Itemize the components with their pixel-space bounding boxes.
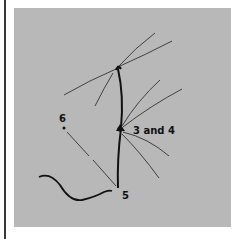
node-3-and-4-dot — [117, 126, 122, 131]
upper-fan-line-4 — [95, 73, 113, 106]
node-fan-line-up-2 — [123, 89, 182, 127]
upper-fan-line-2 — [120, 41, 172, 66]
label-6: 6 — [59, 113, 66, 124]
node-fan-line-down-2 — [122, 134, 159, 178]
wavy-curve — [39, 176, 112, 201]
upper-fan-line-1 — [119, 33, 155, 66]
diagram: 3 and 4 6 5 — [0, 0, 233, 239]
node-fan-line-up-1 — [122, 80, 160, 126]
label-5: 5 — [122, 190, 129, 201]
label-3-and-4: 3 and 4 — [133, 125, 175, 136]
point-6-dot — [63, 127, 66, 130]
line-6-to-5 — [67, 132, 116, 186]
